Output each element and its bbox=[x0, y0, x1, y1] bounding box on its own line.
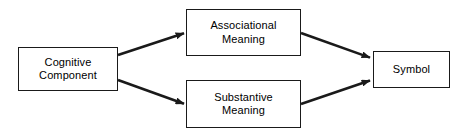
edge-cognitive-to-associational bbox=[118, 33, 184, 55]
node-associational-meaning-line-1: Associational bbox=[210, 19, 276, 33]
edge-substantive-to-symbol bbox=[301, 80, 370, 104]
node-cognitive-component-line-1: Cognitive bbox=[45, 56, 92, 70]
node-symbol: Symbol bbox=[373, 51, 450, 88]
node-symbol-line-1: Symbol bbox=[393, 63, 430, 77]
edge-cognitive-to-substantive bbox=[118, 80, 184, 104]
edge-associational-to-symbol bbox=[301, 33, 370, 58]
node-substantive-meaning-line-1: Substantive bbox=[214, 91, 273, 105]
node-cognitive-component: Cognitive Component bbox=[18, 47, 118, 91]
node-associational-meaning-line-2: Meaning bbox=[222, 33, 265, 47]
node-substantive-meaning-line-2: Meaning bbox=[222, 104, 265, 118]
flow-diagram: Cognitive Component Associational Meanin… bbox=[0, 0, 462, 139]
node-associational-meaning: Associational Meaning bbox=[186, 9, 301, 56]
node-cognitive-component-line-2: Component bbox=[39, 69, 97, 83]
node-substantive-meaning: Substantive Meaning bbox=[186, 80, 301, 128]
